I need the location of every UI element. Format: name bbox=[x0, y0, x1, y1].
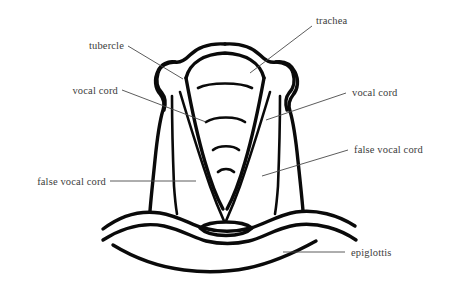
trachea-wall-left-path bbox=[186, 78, 223, 209]
tracheal-ring-1-path bbox=[198, 84, 252, 89]
anatomy-group bbox=[103, 44, 356, 272]
larynx-diagram-svg: tubercle trachea vocal cord vocal cord f… bbox=[0, 0, 461, 285]
tracheal-ring-2-path bbox=[206, 118, 245, 123]
label-trachea: trachea bbox=[316, 15, 348, 26]
epiglottis-fold-path bbox=[113, 241, 316, 272]
label-tubercle: tubercle bbox=[89, 40, 124, 51]
label-false-vocal-cord-right: false vocal cord bbox=[354, 144, 423, 155]
trachea-leader-line bbox=[250, 26, 312, 73]
tracheal-ring-4-path bbox=[218, 169, 234, 172]
label-vocal-cord-right: vocal cord bbox=[352, 87, 398, 98]
trachea-wall-right-path bbox=[227, 78, 264, 209]
vocal-cord-right-leader-line bbox=[266, 93, 346, 120]
trachea-dome-path bbox=[186, 53, 264, 78]
right-false-vocal-cord-path bbox=[275, 96, 280, 214]
left-false-vocal-cord-path bbox=[172, 96, 177, 214]
leader-lines-group bbox=[110, 26, 348, 252]
false-vocal-cord-right-leader-line bbox=[262, 150, 348, 176]
label-epiglottis: epiglottis bbox=[351, 247, 392, 258]
label-vocal-cord-left: vocal cord bbox=[72, 85, 118, 96]
larynx-diagram: tubercle trachea vocal cord vocal cord f… bbox=[0, 0, 461, 285]
label-false-vocal-cord-left: false vocal cord bbox=[37, 176, 106, 187]
tracheal-ring-3-path bbox=[213, 146, 239, 150]
